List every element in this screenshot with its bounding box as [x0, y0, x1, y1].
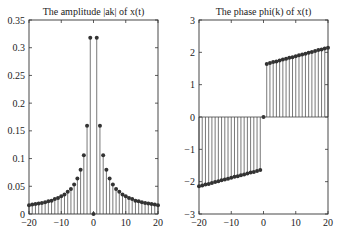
- stem-marker: [111, 183, 115, 187]
- stem-marker: [104, 168, 108, 172]
- stem-marker: [82, 153, 86, 157]
- stem-marker: [258, 168, 262, 172]
- stem-marker: [79, 168, 83, 172]
- y-tick-label: 0.25: [8, 70, 26, 81]
- x-tick-label: −10: [223, 217, 239, 228]
- x-tick-label: 0: [91, 217, 96, 228]
- y-tick-label: 1: [190, 79, 195, 90]
- stem-marker: [75, 177, 79, 181]
- y-tick-label: 0.2: [13, 98, 26, 109]
- stem-marker: [117, 190, 121, 194]
- x-tick-label: 10: [291, 217, 301, 228]
- stem-marker: [114, 187, 118, 191]
- stem-marker: [66, 190, 70, 194]
- y-tick-label: −2: [184, 176, 195, 187]
- stem-marker: [108, 177, 112, 181]
- axes-frame: [29, 20, 158, 214]
- y-tick-label: 0.3: [13, 42, 26, 53]
- stem-marker: [69, 187, 73, 191]
- stem-marker: [98, 124, 102, 128]
- stem-marker: [72, 183, 76, 187]
- amplitude-plot: The amplitude |ak| of x(t)−20−100102000.…: [8, 6, 164, 228]
- x-tick-label: 20: [153, 217, 163, 228]
- y-tick-label: 2: [190, 47, 195, 58]
- x-tick-label: −10: [53, 217, 69, 228]
- chart-title: The phase phi(k) of x(t): [216, 6, 312, 18]
- y-tick-label: 0.15: [8, 125, 26, 136]
- y-tick-label: 0: [190, 112, 195, 123]
- y-tick-label: 0.05: [8, 181, 26, 192]
- y-tick-label: 3: [190, 15, 195, 26]
- x-tick-label: 0: [261, 217, 266, 228]
- x-tick-label: 10: [121, 217, 131, 228]
- x-tick-label: 20: [323, 217, 333, 228]
- y-tick-label: 0: [20, 209, 25, 220]
- stem-marker: [62, 193, 66, 197]
- phase-plot: The phase phi(k) of x(t)−20−1001020−3−2−…: [184, 6, 333, 228]
- y-tick-label: −3: [184, 209, 195, 220]
- y-tick-label: −1: [184, 144, 195, 155]
- y-tick-label: 0.35: [8, 15, 26, 26]
- stem-marker: [95, 36, 99, 40]
- stem-marker: [88, 36, 92, 40]
- stem-marker: [85, 124, 89, 128]
- y-tick-label: 0.1: [13, 153, 26, 164]
- stem-marker: [101, 153, 105, 157]
- figure: The amplitude |ak| of x(t)−20−100102000.…: [0, 0, 337, 234]
- chart-title: The amplitude |ak| of x(t): [43, 6, 145, 18]
